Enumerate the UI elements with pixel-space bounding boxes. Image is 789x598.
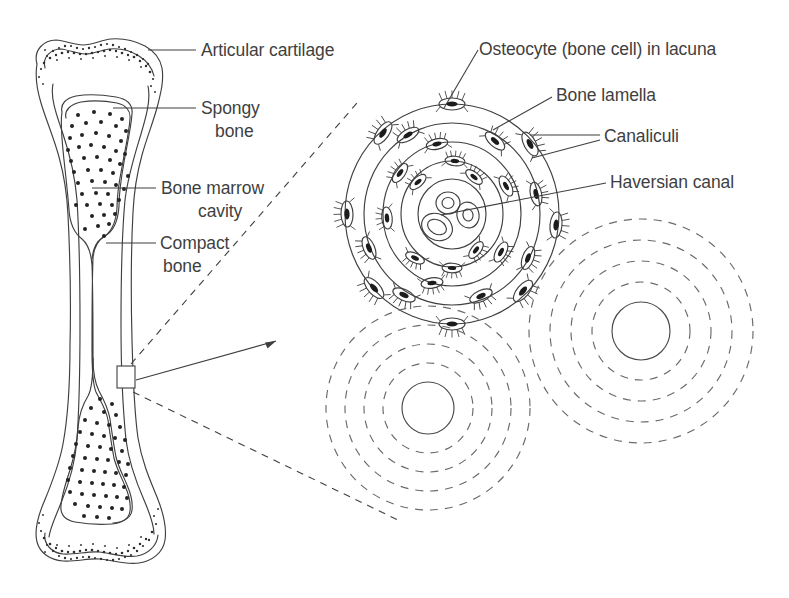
label-osteocyte-in-lacuna: Osteocyte (bone cell) in lacuna [479, 39, 717, 59]
osteocyte-nucleus [447, 321, 458, 326]
label-bone-lamella: Bone lamella [556, 85, 656, 105]
callout-box [117, 366, 135, 388]
label-haversian-canal: Haversian canal [610, 172, 734, 192]
label-compact-bone-line1: Compact [160, 233, 230, 253]
label-spongy-bone-line1: Spongy [201, 98, 260, 118]
figure-background [0, 0, 789, 598]
label-bone-marrow-cavity-line1: Bone marrow [161, 178, 264, 198]
label-compact-bone-line2: bone [163, 256, 202, 276]
label-bone-marrow-cavity-line2: cavity [198, 201, 242, 221]
bone-structure-diagram: Articular cartilage Spongy bone Bone mar… [0, 0, 789, 598]
label-articular-cartilage: Articular cartilage [201, 40, 334, 60]
label-spongy-bone-line2: bone [215, 121, 254, 141]
label-canaliculi: Canaliculi [604, 126, 679, 146]
osteocyte-nucleus [447, 101, 458, 106]
